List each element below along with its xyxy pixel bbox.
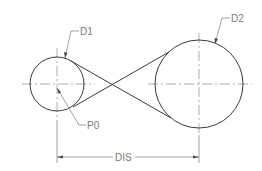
dis-arrow-right-icon <box>193 156 199 159</box>
tangent-line-lower-to-upper <box>73 52 169 107</box>
p0-label: P0 <box>87 120 100 131</box>
tangent-line-upper-to-lower <box>71 61 171 118</box>
dis-arrow-left-icon <box>57 156 63 159</box>
dis-label: DIS <box>115 152 132 163</box>
d1-label: D1 <box>80 26 93 37</box>
d2-label: D2 <box>231 13 244 24</box>
d1-leader-line <box>65 31 79 58</box>
d1-leader-arrow-icon <box>64 52 68 58</box>
tangent-circles-diagram: D1 D2 P0 DIS <box>0 0 262 171</box>
